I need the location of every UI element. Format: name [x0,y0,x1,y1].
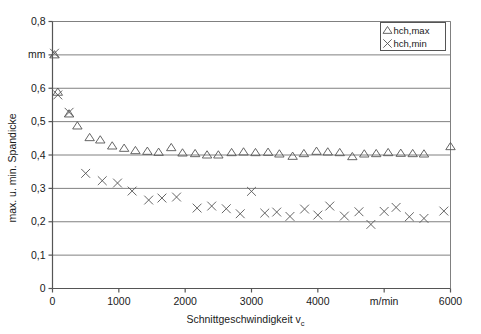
marker-cross [193,204,202,213]
marker-cross [172,193,181,202]
gridlines [53,22,451,256]
marker-triangle [408,149,417,156]
marker-cross [340,212,349,221]
y-tick-label: 0,3 [31,182,46,194]
marker-triangle [119,144,128,151]
marker-cross [81,169,90,178]
x-tick-label: 1000 [107,295,131,307]
marker-triangle [419,150,428,157]
y-tick-label: 0 [40,282,46,294]
y-tick-label: 0,6 [31,82,46,94]
marker-cross [392,203,401,212]
marker-triangle [96,136,105,143]
marker-cross [236,209,245,218]
marker-triangle [154,148,163,155]
marker-cross [439,207,448,216]
y-tick-label: 0,1 [31,249,46,261]
marker-triangle [299,149,308,156]
marker-cross [405,212,414,221]
data-markers [50,49,455,229]
marker-triangle [275,150,284,157]
axis-tick-labels: 00,10,20,30,40,50,6mm0,80100020003000400… [28,15,462,306]
x-tick-label: 3000 [240,295,264,307]
marker-cross [98,176,107,185]
y-tick-label: 0,4 [31,149,46,161]
marker-triangle [371,149,380,156]
marker-triangle [202,151,211,158]
axis-ticks [49,22,451,293]
chart-legend: hch,maxhch,min [381,23,446,51]
marker-cross [300,205,309,214]
marker-triangle [323,148,332,155]
marker-triangle [131,146,140,153]
marker-cross [222,204,231,213]
chart-figure: 00,10,20,30,40,50,6mm0,80100020003000400… [0,0,481,334]
marker-triangle [107,142,116,149]
series-triangle [50,51,455,160]
marker-triangle [239,148,248,155]
y-axis-title: max. u. min. Spandicke [6,113,18,222]
marker-cross [355,207,364,216]
x-axis-title: Schnittgeschwindigkeit vc [186,313,304,328]
x-axis-title-subscript: c [301,319,305,328]
y-tick-label: mm [28,48,46,60]
x-tick-label: 6000 [439,295,463,307]
marker-triangle [190,149,199,156]
marker-triangle [167,143,176,150]
marker-triangle [85,133,94,140]
series-cross [50,49,448,229]
marker-cross [286,212,295,221]
marker-cross [144,196,153,205]
x-tick-label: 2000 [173,295,197,307]
marker-cross [325,202,334,211]
marker-triangle [73,122,82,129]
y-tick-label: 0,2 [31,215,46,227]
marker-cross [158,194,167,203]
marker-triangle [360,150,369,157]
marker-triangle [288,152,297,159]
scatter-plot: 00,10,20,30,40,50,6mm0,80100020003000400… [0,0,481,334]
marker-triangle [263,148,272,155]
marker-cross [207,202,216,211]
marker-triangle [143,147,152,154]
legend-label: hch,min [394,38,427,49]
marker-triangle [348,152,357,159]
y-tick-label: 0,8 [31,15,46,27]
marker-cross [380,207,389,216]
y-tick-label: 0,5 [31,115,46,127]
marker-cross [272,208,281,217]
marker-cross [313,211,322,220]
x-tick-label: 0 [50,295,56,307]
marker-cross [113,179,122,188]
x-tick-label: 4000 [306,295,330,307]
marker-triangle [312,147,321,154]
legend-label: hch,max [394,25,430,36]
x-tick-label: m/min [370,295,399,307]
marker-cross [260,209,269,218]
marker-triangle [214,151,223,158]
